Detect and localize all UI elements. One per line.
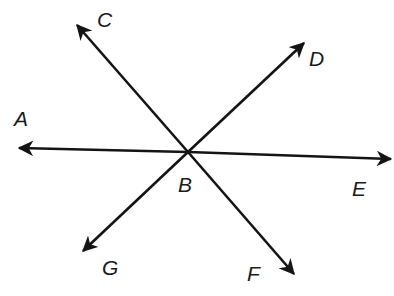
ray-be [188,152,391,159]
point-labels: A B C D E F G [12,8,367,285]
point-label-e: E [352,177,367,200]
point-label-f: F [247,262,261,285]
point-label-d: D [309,47,324,70]
point-label-c: C [97,8,113,31]
point-label-a: A [12,107,28,130]
geometry-diagram: A B C D E F G [0,0,394,296]
point-label-b: B [178,173,192,196]
ray-bf [188,152,294,274]
ray-bg [83,152,188,251]
ray-ba [19,148,188,152]
point-label-g: G [102,256,118,279]
ray-bc [77,25,188,152]
ray-bd [188,43,304,152]
rays-group [19,25,391,274]
